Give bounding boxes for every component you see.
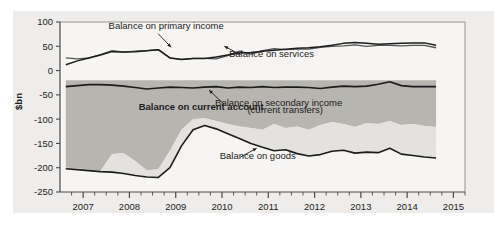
x-axis-tick-label: 2014 <box>397 201 418 212</box>
x-axis-tick-label: 2012 <box>304 201 325 212</box>
y-axis-tick-label: -100 <box>34 114 53 125</box>
x-axis-tick-label: 2010 <box>211 201 232 212</box>
x-axis-tick-label: 2009 <box>165 201 186 212</box>
annotation-balance-on-primary-income: Balance on primary income <box>109 20 224 31</box>
annotation-balance-on-secondary-income-sub: (current transfers) <box>247 104 323 115</box>
annotation-balance-on-goods: Balance on goods <box>220 150 296 161</box>
x-axis-tick-label: 2007 <box>73 201 94 212</box>
chart-figure: $bn 100500-50-100-150-200-25020072008200… <box>0 0 502 225</box>
x-axis-tick-label: 2013 <box>350 201 371 212</box>
x-axis-tick-label: 2011 <box>258 201 278 212</box>
y-axis-tick-label: 0 <box>48 65 53 76</box>
y-axis-tick-label: -250 <box>34 186 53 197</box>
x-axis-tick-label: 2015 <box>443 201 464 212</box>
y-axis-tick-label: -150 <box>34 138 53 149</box>
y-axis-tick-label: -200 <box>34 162 53 173</box>
y-axis-tick-label: 50 <box>42 41 53 52</box>
y-axis-tick-label: -50 <box>39 89 53 100</box>
x-axis-tick-label: 2008 <box>119 201 140 212</box>
y-axis-tick-label: 100 <box>37 16 53 27</box>
annotation-balance-on-services: Balance on services <box>229 48 314 59</box>
balance-of-payments-chart: 100500-50-100-150-200-250200720082009201… <box>0 0 502 225</box>
